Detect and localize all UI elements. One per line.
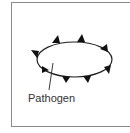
- spike-icon: [52, 35, 60, 43]
- pathogen-diagram: [0, 0, 130, 133]
- surface-antigen-spikes: [31, 34, 111, 83]
- pathogen-label: Pathogen: [28, 92, 75, 104]
- spike-icon: [100, 44, 108, 52]
- spike-icon: [83, 76, 91, 83]
- spike-icon: [62, 76, 70, 83]
- spike-icon: [77, 34, 85, 42]
- pathogen-body: [37, 42, 112, 77]
- leader-line: [49, 63, 53, 90]
